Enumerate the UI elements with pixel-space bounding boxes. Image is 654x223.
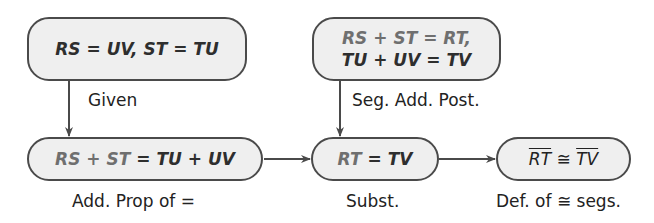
segment-rt: RT — [529, 149, 551, 169]
statement-text-left: RS + ST — [55, 149, 130, 169]
statement: RT = TV — [338, 148, 413, 170]
statement-text: RS + ST = RT, — [342, 28, 471, 48]
statement-line-1: RS + ST = RT, — [342, 27, 471, 49]
statement-text: RS = UV, ST = TU — [55, 39, 218, 59]
node-conclusion: RT ≅ TV — [496, 137, 631, 181]
statement: RS + ST = TU + UV — [55, 148, 235, 170]
statement-text-left: RT — [338, 149, 362, 169]
reason-seg-add: Seg. Add. Post. — [352, 90, 480, 110]
node-seg-add: RS + ST = RT, TU + UV = TV — [312, 17, 501, 81]
node-subst: RT = TV — [311, 137, 439, 181]
statement: RS = UV, ST = TU — [55, 38, 218, 60]
statement-text-right: = TU + UV — [130, 149, 235, 169]
segment-tv: TV — [576, 149, 598, 169]
congruent-symbol: ≅ — [551, 149, 576, 169]
statement-text-right: = TV — [362, 149, 413, 169]
node-given: RS = UV, ST = TU — [27, 17, 247, 81]
reason-given: Given — [88, 90, 137, 110]
reason-add-prop: Add. Prop of = — [72, 191, 195, 211]
statement-line-2: TU + UV = TV — [342, 49, 471, 71]
reason-conclusion: Def. of ≅ segs. — [496, 191, 621, 211]
statement: RT ≅ TV — [529, 148, 598, 170]
reason-subst: Subst. — [346, 191, 399, 211]
statement-text: TU + UV = TV — [342, 50, 471, 70]
node-add-prop: RS + ST = TU + UV — [27, 137, 263, 181]
